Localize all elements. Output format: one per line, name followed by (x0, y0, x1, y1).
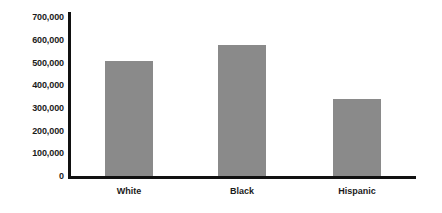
y-tick-label: 100,000 (4, 148, 64, 158)
y-tick-label: 400,000 (4, 80, 64, 90)
y-tick-label: 0 (4, 171, 64, 181)
y-tick-label: 500,000 (4, 58, 64, 68)
x-tick-label-white: White (89, 186, 169, 197)
y-tick-label: 300,000 (4, 103, 64, 113)
bar-chart: 700,000 600,000 500,000 400,000 300,000 … (0, 0, 442, 213)
plot-area: 700,000 600,000 500,000 400,000 300,000 … (0, 0, 442, 213)
y-axis-tick-labels: 700,000 600,000 500,000 400,000 300,000 … (0, 0, 64, 213)
bar-black (218, 45, 266, 176)
x-axis-line (68, 176, 416, 179)
y-axis-line (68, 12, 71, 178)
bar-white (105, 61, 153, 176)
y-tick-label: 200,000 (4, 126, 64, 136)
x-tick-label-black: Black (202, 186, 282, 197)
y-tick-label: 700,000 (4, 12, 64, 22)
y-tick-label: 600,000 (4, 35, 64, 45)
bar-hispanic (333, 99, 381, 176)
x-tick-label-hispanic: Hispanic (317, 186, 397, 197)
